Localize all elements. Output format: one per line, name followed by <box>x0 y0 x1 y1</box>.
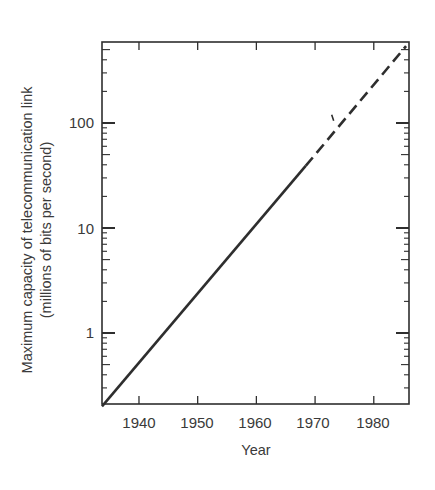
y-axis-label: Maximum capacity of telecommunication li… <box>19 86 35 374</box>
x-tick-label-1950: 1950 <box>180 414 213 431</box>
x-tick-label-1980: 1980 <box>356 414 389 431</box>
y-tick-label-10: 10 <box>77 220 94 237</box>
capacity-chart: 1940 1950 1960 1970 1980 100 10 1 Year M… <box>0 0 435 490</box>
y-tick-label-100: 100 <box>69 114 94 131</box>
projected-trend-line <box>306 46 406 166</box>
x-tick-label-1940: 1940 <box>122 414 155 431</box>
data-lines <box>102 46 406 406</box>
x-tick-label-1970: 1970 <box>296 414 329 431</box>
historical-trend-line <box>102 166 306 406</box>
annotation-mark <box>332 115 334 121</box>
y-axis-label-units: (millions of bits per second) <box>38 142 54 319</box>
x-tick-label-1960: 1960 <box>238 414 271 431</box>
x-axis-label: Year <box>241 442 270 458</box>
y-tick-label-1: 1 <box>86 324 94 341</box>
